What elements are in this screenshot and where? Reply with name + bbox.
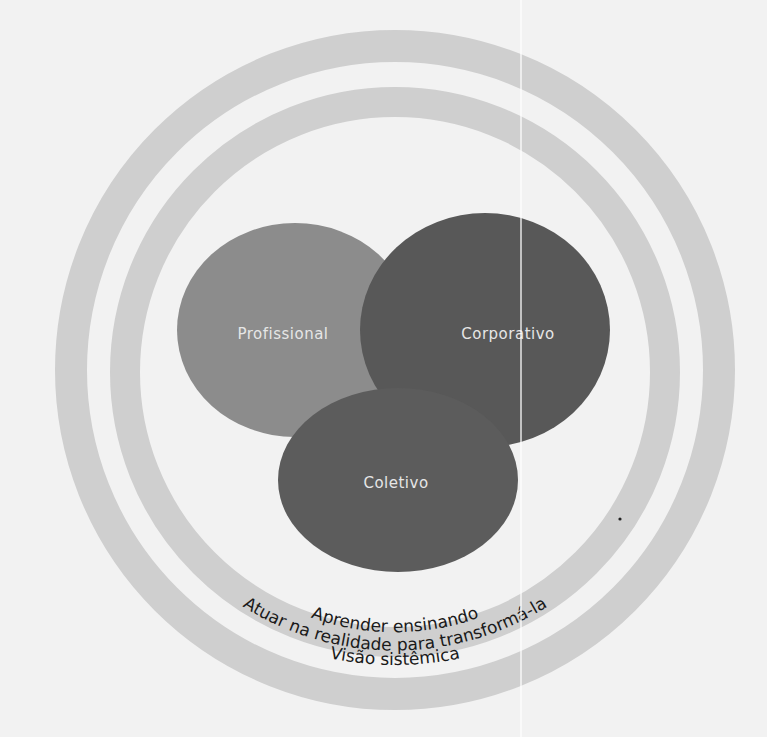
- label-coletivo: Coletivo: [363, 474, 428, 492]
- label-profissional: Profissional: [237, 325, 328, 343]
- label-corporativo: Corporativo: [461, 325, 554, 343]
- diagram-svg: Profissional Corporativo Coletivo Aprend…: [0, 0, 767, 737]
- stray-dot: [618, 517, 621, 520]
- diagram-canvas: Profissional Corporativo Coletivo Aprend…: [0, 0, 767, 737]
